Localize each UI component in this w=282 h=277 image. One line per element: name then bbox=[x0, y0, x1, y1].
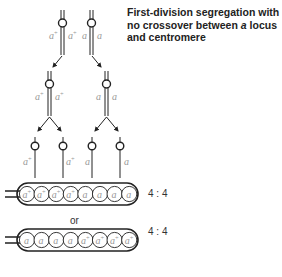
svg-text:a+: a+ bbox=[68, 29, 77, 41]
stage3-labels: a+a+aa bbox=[23, 155, 129, 167]
centromere-icon bbox=[46, 80, 54, 88]
centromere-icon bbox=[88, 142, 96, 150]
svg-text:a: a bbox=[96, 91, 101, 102]
arrow-icon bbox=[95, 117, 107, 131]
svg-text:a+: a+ bbox=[55, 90, 64, 102]
ascus-1: a+a+a+a+aaaa bbox=[5, 183, 138, 205]
svg-text:a: a bbox=[97, 189, 102, 200]
division1-arrows bbox=[53, 56, 101, 67]
stage2-left-chromosome bbox=[46, 71, 54, 116]
arrow-icon bbox=[53, 56, 62, 67]
svg-text:a+: a+ bbox=[35, 90, 44, 102]
arrow-icon bbox=[107, 117, 119, 131]
stage2-right-chromosome bbox=[103, 71, 111, 116]
svg-text:a+: a+ bbox=[23, 155, 32, 167]
svg-text:a: a bbox=[124, 156, 129, 167]
arrow-icon bbox=[92, 56, 101, 67]
ascus-2: aaaaa+a+a+a+ bbox=[5, 229, 138, 251]
svg-text:a: a bbox=[126, 189, 131, 200]
stage1-labels: a+a+aa bbox=[49, 29, 102, 41]
centromere-icon bbox=[88, 19, 96, 27]
meiosis-diagram: a+a+aa a+a+aa bbox=[0, 0, 282, 277]
stage1-left-chromosome bbox=[59, 10, 67, 55]
stage1-right-chromosome bbox=[88, 10, 96, 55]
division2-arrows bbox=[38, 117, 118, 131]
ascus-2-ratio: 4 : 4 bbox=[148, 226, 167, 237]
svg-text:a: a bbox=[39, 235, 44, 246]
svg-text:a: a bbox=[53, 235, 58, 246]
ascus-1-ratio: 4 : 4 bbox=[148, 188, 167, 199]
svg-text:a: a bbox=[82, 189, 87, 200]
centromere-icon bbox=[103, 80, 111, 88]
svg-text:a+: a+ bbox=[66, 155, 75, 167]
svg-text:a: a bbox=[82, 30, 87, 41]
svg-text:a: a bbox=[112, 189, 117, 200]
centromere-icon bbox=[31, 142, 39, 150]
arrow-icon bbox=[50, 117, 62, 131]
arrow-icon bbox=[38, 117, 50, 131]
svg-text:a: a bbox=[68, 235, 73, 246]
or-label: or bbox=[70, 215, 79, 226]
svg-text:a: a bbox=[24, 235, 29, 246]
centromere-icon bbox=[116, 142, 124, 150]
svg-text:a+: a+ bbox=[49, 29, 58, 41]
svg-text:a: a bbox=[85, 156, 90, 167]
stage3-chromatids bbox=[31, 137, 124, 178]
svg-text:a: a bbox=[112, 91, 117, 102]
centromere-icon bbox=[59, 142, 67, 150]
centromere-icon bbox=[59, 19, 67, 27]
svg-text:a: a bbox=[97, 30, 102, 41]
